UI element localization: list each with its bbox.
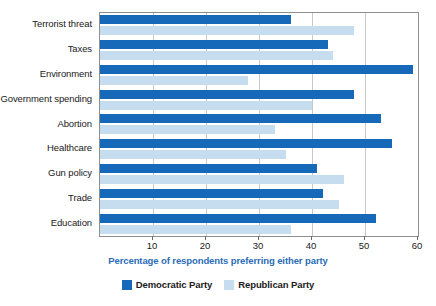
category-label: Environment: [40, 69, 92, 79]
category-axis-labels: Terrorist threatTaxesEnvironmentGovernme…: [0, 12, 96, 235]
bar-democratic: [100, 114, 381, 123]
legend-item-republican: Republican Party: [224, 279, 314, 290]
bar-republican: [100, 76, 248, 85]
legend-item-democratic: Democratic Party: [122, 279, 213, 290]
bar-republican: [100, 125, 275, 134]
bar-republican: [100, 225, 291, 234]
category-label: Abortion: [57, 119, 92, 129]
bar-group: [100, 186, 418, 211]
legend-swatch-republican-icon: [224, 280, 234, 290]
bar-democratic: [100, 139, 392, 148]
x-axis-title: Percentage of respondents preferring eit…: [0, 255, 436, 266]
category-label: Terrorist threat: [32, 19, 92, 29]
x-tick-label: 20: [200, 240, 211, 251]
x-tick-label: 60: [412, 240, 423, 251]
bar-democratic: [100, 214, 376, 223]
category-label: Education: [51, 218, 92, 228]
bar-republican: [100, 26, 354, 35]
bar-republican: [100, 101, 312, 110]
bar-group: [100, 137, 418, 162]
bar-group: [100, 162, 418, 187]
bar-republican: [100, 150, 286, 159]
bar-chart: Terrorist threatTaxesEnvironmentGovernme…: [0, 0, 436, 306]
bar-group: [100, 87, 418, 112]
x-tick-label: 10: [147, 240, 158, 251]
bar-group: [100, 13, 418, 38]
bar-democratic: [100, 189, 323, 198]
bar-democratic: [100, 65, 413, 74]
category-label: Taxes: [68, 44, 92, 54]
legend-swatch-democratic-icon: [122, 280, 132, 290]
x-tick-label: 40: [306, 240, 317, 251]
bar-democratic: [100, 15, 291, 24]
legend-label-democratic: Democratic Party: [136, 279, 213, 290]
category-label: Government spending: [0, 94, 92, 104]
x-tick-label: 50: [359, 240, 370, 251]
legend-label-republican: Republican Party: [238, 279, 314, 290]
legend: Democratic Party Republican Party: [0, 279, 436, 290]
plot-area: [99, 12, 419, 237]
x-axis-ticks: 102030405060: [99, 236, 417, 241]
bar-democratic: [100, 90, 354, 99]
category-label: Trade: [68, 193, 92, 203]
x-tick-label: 30: [253, 240, 264, 251]
bar-democratic: [100, 164, 317, 173]
category-label: Gun policy: [48, 168, 92, 178]
bar-republican: [100, 51, 333, 60]
bar-group: [100, 112, 418, 137]
bar-republican: [100, 200, 339, 209]
bar-group: [100, 211, 418, 236]
bar-republican: [100, 175, 344, 184]
bar-group: [100, 63, 418, 88]
category-label: Healthcare: [47, 143, 92, 153]
bar-group: [100, 38, 418, 63]
bar-democratic: [100, 40, 328, 49]
